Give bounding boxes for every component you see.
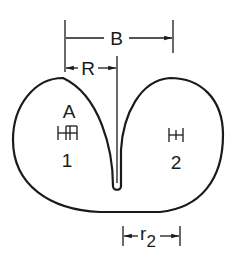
label-point-1: 1 bbox=[62, 150, 73, 171]
label-b: B bbox=[110, 28, 123, 49]
label-a: A bbox=[63, 101, 76, 122]
label-r: R bbox=[81, 58, 95, 79]
two-lobe-figure: B R A 1 2 bbox=[0, 0, 238, 254]
marker-1-icon bbox=[58, 126, 77, 140]
label-r2: r2 bbox=[140, 223, 156, 251]
marker-2-icon bbox=[169, 128, 183, 142]
label-point-2: 2 bbox=[171, 152, 182, 173]
diagram-canvas: B R A 1 2 bbox=[0, 0, 238, 254]
label-r2-sub: 2 bbox=[146, 232, 155, 251]
lobe-outline bbox=[13, 78, 223, 212]
dimension-r2: r2 bbox=[123, 223, 180, 251]
dimension-r: R bbox=[66, 58, 116, 79]
